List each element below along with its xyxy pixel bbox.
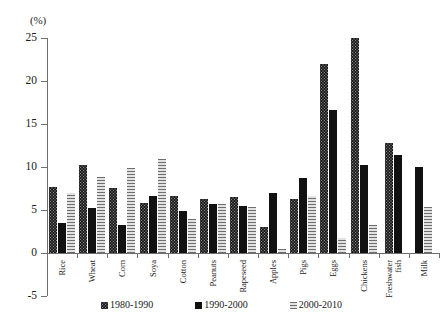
legend-swatch: [101, 302, 108, 309]
x-axis-label: Pigs: [299, 260, 308, 275]
y-axis-tick-label: 15: [0, 118, 37, 130]
bar-group: [47, 38, 77, 253]
bar-group: [379, 38, 409, 253]
x-label-cell: Milk: [409, 258, 439, 303]
bar: [179, 211, 187, 253]
bar: [97, 177, 105, 253]
bar: [308, 196, 316, 253]
x-label-cell: Rice: [47, 258, 77, 303]
legend-label: 1980-1990: [110, 300, 153, 310]
bar: [424, 207, 432, 253]
bar: [369, 225, 377, 253]
bar: [127, 168, 135, 253]
legend-label: 2000-2010: [299, 300, 342, 310]
y-axis-tick-label: 5: [0, 204, 37, 216]
y-axis-tick-label: 20: [0, 75, 37, 87]
bar: [338, 238, 346, 253]
x-axis-label: Soya: [148, 260, 157, 277]
legend-label: 1990-2000: [204, 300, 247, 310]
bar: [320, 64, 328, 253]
y-axis-unit-label: (%): [30, 14, 46, 26]
bar: [200, 199, 208, 253]
bar-group: [409, 38, 439, 253]
bar: [58, 223, 66, 253]
bar: [188, 219, 196, 253]
bar: [230, 197, 238, 253]
x-axis-label: Milk: [419, 260, 428, 277]
bar-group: [198, 38, 228, 253]
legend-swatch: [290, 302, 297, 309]
x-label-cell: Eggs: [318, 258, 348, 303]
bar-group: [349, 38, 379, 253]
bar-chart-figure: (%) 2520151050-5 RiceWheatCornSoyaCotton…: [0, 0, 443, 334]
bar: [360, 165, 368, 253]
x-axis-label: Rapeseed: [239, 260, 248, 293]
x-axis-label: Peanuts: [208, 260, 217, 286]
bar: [149, 196, 157, 253]
bar-group: [318, 38, 348, 253]
chart-legend: 1980-19901990-20002000-2010: [0, 300, 443, 310]
x-axis-label: Eggs: [329, 260, 338, 277]
x-label-cell: Wheat: [77, 258, 107, 303]
caption-strip: [0, 322, 443, 334]
x-label-cell: Cotton: [168, 258, 198, 303]
x-label-cell: Apples: [258, 258, 288, 303]
bar: [88, 208, 96, 253]
legend-swatch: [195, 302, 202, 309]
x-label-cell: Soya: [137, 258, 167, 303]
bar: [209, 204, 217, 253]
bar: [239, 206, 247, 253]
x-label-cell: Rapeseed: [228, 258, 258, 303]
bar-group: [77, 38, 107, 253]
bar: [290, 199, 298, 253]
bar-group: [228, 38, 258, 253]
y-axis-tick-label: 0: [0, 247, 37, 259]
x-axis-label: Corn: [118, 260, 127, 277]
bar: [329, 110, 337, 253]
bar: [170, 196, 178, 253]
x-axis-label: Wheat: [88, 260, 97, 282]
bar: [67, 193, 75, 253]
bar: [158, 159, 166, 253]
bar-group: [258, 38, 288, 253]
x-label-cell: Freshwater fish: [379, 258, 409, 303]
bar: [299, 178, 307, 253]
bar: [351, 38, 359, 253]
bar: [269, 193, 277, 253]
x-axis-label: Cotton: [178, 260, 187, 283]
bar-group: [288, 38, 318, 253]
x-label-cell: Chickens: [349, 258, 379, 303]
y-axis-tick-label: 10: [0, 161, 37, 173]
bar-groups: [47, 38, 439, 253]
bar: [218, 204, 226, 253]
legend-item: 1990-2000: [195, 300, 247, 310]
bar: [385, 143, 393, 253]
legend-item: 1980-1990: [101, 300, 153, 310]
x-label-cell: Pigs: [288, 258, 318, 303]
x-axis-label: Apples: [269, 260, 278, 284]
bar: [140, 203, 148, 253]
bar: [118, 225, 126, 253]
bar: [49, 187, 57, 253]
bar-group: [168, 38, 198, 253]
x-axis-label: Freshwater fish: [385, 260, 403, 300]
bar-group: [107, 38, 137, 253]
bar: [415, 167, 423, 253]
bar: [394, 155, 402, 253]
x-axis-label: Chickens: [359, 260, 368, 292]
legend-item: 2000-2010: [290, 300, 342, 310]
bar-group: [137, 38, 167, 253]
bar: [260, 227, 268, 253]
x-axis-tick: [439, 253, 440, 258]
x-label-cell: Corn: [107, 258, 137, 303]
bar: [79, 165, 87, 253]
y-axis-tick-label: 25: [0, 32, 37, 44]
x-axis-label: Rice: [58, 260, 67, 276]
bar: [109, 188, 117, 253]
x-axis-category-labels: RiceWheatCornSoyaCottonPeanutsRapeseedAp…: [47, 258, 439, 303]
bar: [248, 207, 256, 253]
x-label-cell: Peanuts: [198, 258, 228, 303]
